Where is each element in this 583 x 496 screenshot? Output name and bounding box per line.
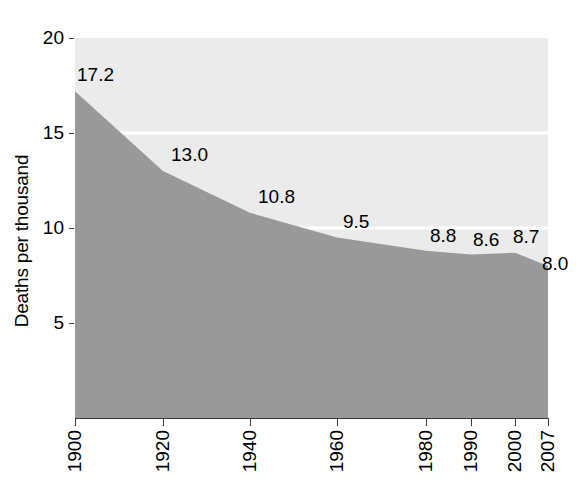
x-tick-mark xyxy=(250,419,251,426)
y-tick-mark xyxy=(69,228,74,229)
data-point-label: 9.5 xyxy=(343,212,369,231)
y-tick-label: 10 xyxy=(30,218,64,238)
x-tick-label: 1960 xyxy=(326,430,348,496)
x-tick-mark xyxy=(163,419,164,426)
data-point-label: 10.8 xyxy=(258,187,295,206)
data-point-label: 8.7 xyxy=(513,227,539,246)
y-tick-label: 5 xyxy=(30,313,64,333)
x-tick-label: 1920 xyxy=(152,430,174,496)
area-fill xyxy=(75,91,548,418)
plot-area xyxy=(75,38,548,418)
x-axis-line xyxy=(75,418,549,419)
x-tick-mark xyxy=(337,419,338,426)
data-point-label: 8.8 xyxy=(430,226,456,245)
x-tick-label: 1940 xyxy=(239,430,261,496)
x-tick-mark xyxy=(426,419,427,426)
x-tick-label: 1980 xyxy=(415,430,437,496)
x-tick-label: 1990 xyxy=(460,430,482,496)
data-point-label: 17.2 xyxy=(77,65,114,84)
x-tick-label: 2000 xyxy=(504,430,526,496)
data-point-label: 13.0 xyxy=(171,145,208,164)
y-tick-label: 15 xyxy=(30,123,64,143)
y-tick-mark xyxy=(69,38,74,39)
x-tick-mark xyxy=(548,419,549,426)
y-tick-label: 20 xyxy=(30,28,64,48)
x-tick-label: 1900 xyxy=(64,430,86,496)
area-chart: Deaths per thousand 2015105 17.213.010.8… xyxy=(0,0,583,496)
data-point-label: 8.6 xyxy=(473,230,499,249)
x-tick-mark xyxy=(515,419,516,426)
x-tick-mark xyxy=(75,419,76,426)
y-tick-mark xyxy=(69,133,74,134)
y-tick-mark xyxy=(69,323,74,324)
x-tick-label: 2007 xyxy=(537,430,559,496)
data-point-label: 8.0 xyxy=(542,254,568,273)
x-tick-mark xyxy=(471,419,472,426)
area-series-svg xyxy=(75,38,548,418)
